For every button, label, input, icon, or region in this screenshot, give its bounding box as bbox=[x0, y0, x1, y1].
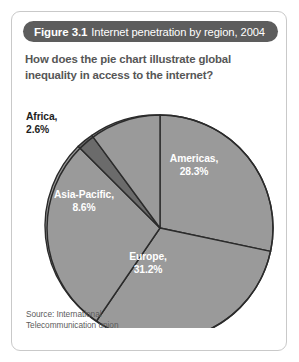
figure-number: Figure 3.1 bbox=[34, 26, 87, 38]
pie-label-europe: Europe, 31.2% bbox=[102, 250, 194, 276]
pie-label-americas-name: Americas, bbox=[148, 152, 240, 165]
pie-label-americas-value: 28.3% bbox=[148, 165, 240, 178]
source-line-2: Telecommunication union bbox=[26, 320, 206, 331]
pie-label-europe-name: Europe, bbox=[102, 250, 194, 263]
pie-label-asia-pacific: Asia-Pacific, 8.6% bbox=[38, 188, 130, 214]
pie-label-americas: Americas, 28.3% bbox=[148, 152, 240, 178]
pie-chart: Americas, 28.3% Europe, 31.2% Asia-Pacif… bbox=[12, 90, 286, 328]
source-note: Source: International Telecommunication … bbox=[26, 309, 206, 331]
pie-label-africa-name: Africa, bbox=[26, 110, 88, 123]
figure-banner: Figure 3.1 Internet penetration by regio… bbox=[23, 21, 278, 42]
question-prompt: How does the pie chart illustrate global… bbox=[25, 52, 277, 83]
pie-label-europe-value: 31.2% bbox=[102, 263, 194, 276]
pie-label-asia-pacific-value: 8.6% bbox=[38, 201, 130, 214]
source-line-1: Source: International bbox=[26, 309, 206, 320]
figure-title: Internet penetration by region, 2004 bbox=[91, 26, 265, 38]
figure-card: Figure 3.1 Internet penetration by regio… bbox=[11, 11, 287, 351]
pie-label-asia-pacific-name: Asia-Pacific, bbox=[38, 188, 130, 201]
pie-label-africa: Africa, 2.6% bbox=[26, 110, 88, 136]
pie-label-africa-value: 2.6% bbox=[26, 123, 88, 136]
